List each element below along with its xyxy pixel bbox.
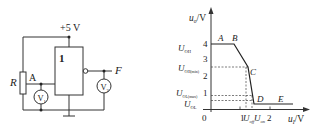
node-a-dot	[40, 83, 43, 86]
node-a-label: A	[29, 72, 37, 83]
resistor-label: R	[9, 76, 17, 88]
uon-label: Uon	[254, 113, 266, 124]
y-tick-1: 1	[203, 88, 208, 98]
y-tick-2: 2	[203, 71, 208, 81]
output-label: F	[114, 64, 122, 76]
point-b-label: B	[232, 33, 238, 43]
point-d-label: D	[256, 94, 264, 104]
transfer-characteristic-chart: uo/V uI/V 4 3 2 1 0 1 2 Uoff Uon UOH UOH…	[176, 7, 310, 125]
y-tick-3: 3	[203, 54, 208, 64]
uolmax-label: UOL(max)	[176, 88, 198, 99]
supply-label: +5 V	[60, 22, 81, 33]
voltmeter-2-subscript: 2	[107, 88, 109, 93]
gate-label: 1	[59, 52, 65, 64]
y-axis-arrow-icon	[209, 7, 214, 14]
x-axis-arrow-icon	[303, 107, 310, 112]
figure: +5 V 1 R A F V 1 V 2 uo/V uI/V	[0, 0, 310, 136]
ground-node-dot	[40, 109, 43, 112]
supply-node-dot	[68, 36, 71, 39]
point-e-label: E	[277, 94, 284, 104]
x-tick-2-label: 2	[267, 113, 272, 123]
y-tick-4: 4	[203, 39, 208, 49]
resistor	[20, 72, 26, 94]
uoh-label: UOH	[178, 43, 192, 54]
voltmeter-1-subscript: 1	[44, 99, 46, 104]
inverter-bubble	[83, 69, 88, 74]
point-c-label: C	[250, 67, 257, 77]
uohmin-label: UOH(min)	[178, 63, 200, 74]
origin-label: 0	[202, 113, 207, 123]
output-node-dot	[103, 70, 106, 73]
y-axis-label: uo/V	[189, 13, 206, 24]
x-axis-label: uI/V	[288, 114, 304, 125]
point-a-label: A	[217, 33, 224, 43]
uol-label: UOL	[184, 99, 197, 110]
